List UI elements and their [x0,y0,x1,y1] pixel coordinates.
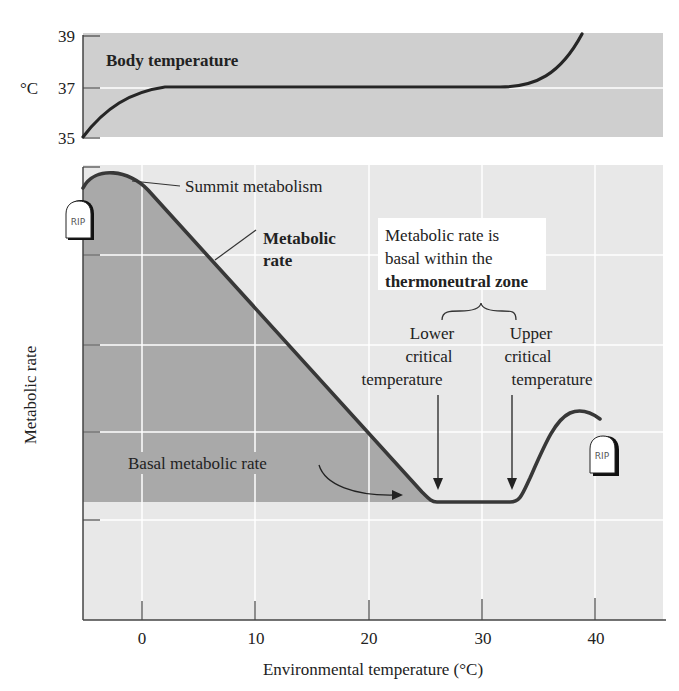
xtick-label-30: 30 [475,629,492,648]
lower-critical-line2: critical [405,347,452,366]
top-ytick-label-39: 39 [58,27,75,46]
lower-critical-line3: temperature [361,370,442,389]
metabolic-rate-panel: 0 10 20 30 40 Environmental temperature … [21,165,666,679]
top-ytick-label-37: 37 [58,79,76,98]
summit-metabolism-label: Summit metabolism [185,177,322,196]
body-temperature-panel: 39 37 35 °C Body temperature [20,27,663,148]
upper-critical-line2: critical [504,347,551,366]
upper-critical-line1: Upper [510,324,553,343]
top-panel-background [83,33,663,137]
tombstone-left-icon: RIP [66,200,94,240]
thermoregulation-figure: 39 37 35 °C Body temperature [0,0,679,691]
xtick-label-40: 40 [588,629,605,648]
zone-text-line2: basal within the [385,249,493,268]
metabolic-rate-label-line1: Metabolic [263,229,336,248]
rip-right-text: RIP [595,451,610,461]
basal-metabolic-rate-label: Basal metabolic rate [128,454,267,473]
lower-critical-line1: Lower [410,324,455,343]
xtick-label-10: 10 [248,629,265,648]
zone-text-line3: thermoneutral zone [385,272,529,291]
x-axis-label: Environmental temperature (°C) [263,660,483,679]
upper-critical-line3: temperature [511,370,592,389]
zone-text-line1: Metabolic rate is [385,226,499,245]
top-ytick-label-35: 35 [58,129,75,148]
metabolic-rate-label-line2: rate [263,251,293,270]
body-temperature-title: Body temperature [106,51,239,70]
top-unit-label: °C [20,79,38,98]
xtick-label-20: 20 [361,629,378,648]
y-axis-label: Metabolic rate [21,346,40,445]
rip-left-text: RIP [71,217,86,227]
tombstone-right-icon: RIP [590,436,619,476]
xtick-label-0: 0 [138,629,147,648]
